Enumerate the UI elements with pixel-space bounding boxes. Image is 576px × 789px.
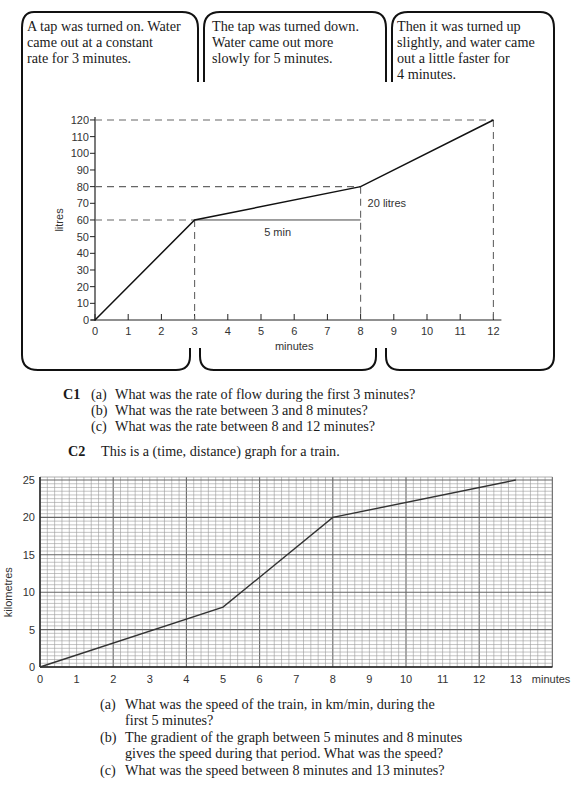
train-distance-chart: 0510152025012345678910111213minuteskilom…: [0, 460, 576, 690]
svg-text:10: 10: [23, 586, 35, 598]
svg-text:11: 11: [454, 325, 465, 337]
svg-text:0: 0: [92, 325, 98, 337]
svg-text:11: 11: [437, 673, 448, 685]
box-3-line: 4 minutes.: [397, 66, 535, 82]
svg-text:0: 0: [37, 673, 43, 685]
box-3-line: slightly, and water came: [397, 34, 535, 50]
svg-text:7: 7: [324, 325, 330, 337]
svg-text:1: 1: [125, 325, 131, 337]
svg-text:20 litres: 20 litres: [368, 197, 407, 209]
svg-text:0: 0: [29, 661, 35, 673]
c2-intro: This is a (time, distance) graph for a t…: [101, 444, 340, 460]
c2-q-c-line1: What was the speed between 8 minutes and…: [125, 763, 445, 779]
svg-text:12: 12: [473, 673, 485, 685]
c2-q-c-letter: (c): [100, 763, 116, 779]
svg-text:40: 40: [77, 247, 89, 259]
svg-text:25: 25: [23, 474, 35, 486]
svg-text:minutes: minutes: [532, 673, 571, 685]
svg-text:10: 10: [77, 297, 89, 309]
box-3-line: out a little faster for: [397, 50, 535, 66]
svg-text:12: 12: [487, 325, 499, 337]
svg-text:3: 3: [147, 673, 153, 685]
svg-text:50: 50: [77, 231, 89, 243]
svg-text:110: 110: [71, 131, 89, 143]
box-1-line: rate for 3 minutes.: [27, 50, 181, 66]
box-3-text: Then it was turned up slightly, and wate…: [397, 18, 535, 82]
svg-text:5 min: 5 min: [264, 226, 291, 238]
svg-text:70: 70: [77, 197, 89, 209]
svg-text:2: 2: [110, 673, 116, 685]
svg-text:120: 120: [71, 114, 89, 126]
svg-text:5: 5: [220, 673, 226, 685]
svg-text:20: 20: [23, 511, 35, 523]
box-2-text: The tap was turned down. Water came out …: [212, 18, 359, 66]
c1-q-a-letter: (a): [91, 387, 107, 403]
c2-label: C2: [68, 444, 85, 460]
svg-text:7: 7: [293, 673, 299, 685]
box-2-line: Water came out more: [212, 34, 359, 50]
svg-text:90: 90: [77, 164, 89, 176]
svg-text:9: 9: [366, 673, 372, 685]
c1-q-b-letter: (b): [91, 403, 108, 419]
svg-text:10: 10: [421, 325, 433, 337]
svg-text:6: 6: [291, 325, 297, 337]
svg-text:0: 0: [83, 314, 89, 326]
box-1-line: came out at a constant: [27, 34, 181, 50]
c2-q-b-letter: (b): [100, 730, 117, 746]
svg-text:100: 100: [71, 147, 89, 159]
box-2-line: The tap was turned down.: [212, 18, 359, 34]
box-1-line: A tap was turned on. Water: [27, 18, 181, 34]
c2-q-a-letter: (a): [100, 697, 116, 713]
c1-q-a: What was the rate of flow during the fir…: [115, 387, 415, 403]
svg-text:9: 9: [391, 325, 397, 337]
c2-q-b-line2: gives the speed during that period. What…: [125, 746, 443, 762]
c2-q-a-line2: first 5 minutes?: [125, 713, 213, 729]
svg-text:litres: litres: [53, 208, 65, 232]
box-1-text: A tap was turned on. Water came out at a…: [27, 18, 181, 66]
svg-text:5: 5: [258, 325, 264, 337]
c2-q-a-line1: What was the speed of the train, in km/m…: [125, 697, 435, 713]
c1-q-b: What was the rate between 3 and 8 minute…: [115, 403, 368, 419]
x-axis-label: minutes: [275, 340, 314, 352]
svg-text:10: 10: [400, 673, 412, 685]
svg-text:1: 1: [74, 673, 80, 685]
svg-text:6: 6: [257, 673, 263, 685]
box-2-line: slowly for 5 minutes.: [212, 50, 359, 66]
c2-q-b-line1: The gradient of the graph between 5 minu…: [125, 730, 462, 746]
c1-q-c: What was the rate between 8 and 12 minut…: [115, 419, 375, 435]
svg-text:2: 2: [158, 325, 164, 337]
svg-text:15: 15: [23, 549, 35, 561]
svg-text:80: 80: [77, 181, 89, 193]
svg-text:20: 20: [77, 281, 89, 293]
c1-label: C1: [63, 387, 80, 403]
svg-text:kilometres: kilometres: [2, 567, 14, 618]
svg-text:5: 5: [29, 624, 35, 636]
svg-text:4: 4: [225, 325, 231, 337]
svg-text:13: 13: [510, 673, 522, 685]
box-3-line: Then it was turned up: [397, 18, 535, 34]
c1-q-c-letter: (c): [91, 419, 107, 435]
svg-text:8: 8: [358, 325, 364, 337]
svg-text:60: 60: [77, 214, 89, 226]
svg-text:3: 3: [192, 325, 198, 337]
svg-text:30: 30: [77, 264, 89, 276]
svg-text:4: 4: [183, 673, 189, 685]
svg-text:8: 8: [330, 673, 336, 685]
